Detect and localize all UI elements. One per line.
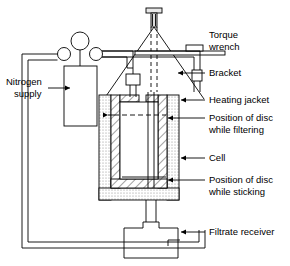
filtrate-receiver-vessel	[124, 222, 180, 258]
label-torque-wrench-line1: Torque	[209, 29, 238, 40]
label-disc-sticking-line2: while sticking	[208, 186, 265, 197]
clamp-shaft	[151, 27, 157, 92]
label-nitrogen-supply-line2: supply	[14, 88, 42, 99]
label-torque-wrench-line2: wrench	[208, 41, 240, 52]
label-disc-filtering-line2: while filtering	[208, 124, 264, 135]
label-disc-filtering-line1: Position of disc	[209, 112, 273, 123]
label-disc-sticking-line1: Position of disc	[209, 174, 273, 185]
label-bracket: Bracket	[209, 67, 242, 78]
gas-inlet-fitting	[126, 68, 140, 97]
pressure-cell	[111, 95, 167, 188]
apparatus-diagram: Torque wrench Bracket Heating jacket Pos…	[0, 0, 290, 266]
filtrate-outlet-tube	[146, 200, 156, 222]
valve-right	[90, 48, 103, 61]
triangular-bracket	[104, 27, 204, 99]
torque-wrench-handle	[186, 45, 203, 51]
apparatus-schematic: Torque wrench Bracket Heating jacket Pos…	[0, 0, 290, 266]
pressure-gauge	[71, 32, 89, 50]
label-heating-jacket: Heating jacket	[209, 94, 270, 105]
label-filtrate-receiver: Filtrate receiver	[209, 226, 274, 237]
valve-left	[58, 48, 71, 61]
top-clamping-bolt	[146, 8, 162, 27]
label-cell: Cell	[209, 152, 225, 163]
label-nitrogen-supply-line1: Nitrogen	[6, 76, 42, 87]
